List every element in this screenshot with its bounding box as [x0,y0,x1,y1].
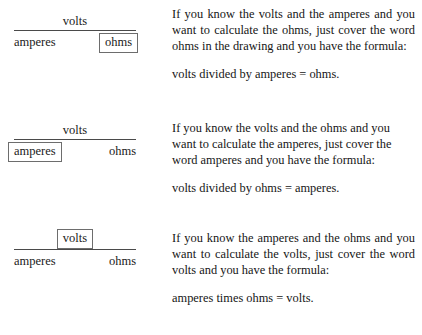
block-amperes: If you know the volts and the ohms and y… [172,120,415,196]
explanation-paragraph: If you know the volts and the amperes an… [172,6,415,55]
term-ohms: ohms [109,143,136,159]
explanation-column: If you know the volts and the amperes an… [172,0,416,335]
formula-line: amperes times ohms = volts. [172,290,415,306]
diagram-numerator-row: volts [14,118,136,139]
diagram-volts: volts amperes ohms [14,228,136,272]
diagram-denominator-row: amperes ohms [14,31,136,53]
formula-line: volts divided by ohms = amperes. [172,180,415,196]
diagram-denominator-row: amperes ohms [14,140,136,162]
block-ohms: If you know the volts and the amperes an… [172,6,415,82]
explanation-paragraph: If you know the volts and the ohms and y… [172,120,415,169]
term-ohms: ohms [109,253,136,269]
term-volts-boxed: volts [57,229,93,249]
ohms-law-page: volts amperes ohms volts amperes ohms [0,0,422,335]
block-volts: If you know the amperes and the ohms and… [172,230,415,306]
term-amperes: amperes [14,34,56,50]
term-ohms-boxed: ohms [99,33,138,53]
diagram-column: volts amperes ohms volts amperes ohms [0,0,165,335]
term-volts: volts [63,122,87,138]
numerator-slot: volts [14,13,136,29]
diagram-ohms: volts amperes ohms [14,9,136,53]
term-amperes: amperes [14,253,56,269]
diagram-denominator-row: amperes ohms [14,250,136,272]
explanation-paragraph: If you know the amperes and the ohms and… [172,230,415,279]
numerator-slot: volts [14,229,136,249]
diagram-amperes: volts amperes ohms [14,118,136,162]
term-amperes-boxed: amperes [8,142,62,162]
formula-line: volts divided by amperes = ohms. [172,66,415,82]
diagram-numerator-row: volts [14,228,136,249]
term-volts: volts [63,13,87,29]
diagram-numerator-row: volts [14,9,136,30]
numerator-slot: volts [14,122,136,138]
